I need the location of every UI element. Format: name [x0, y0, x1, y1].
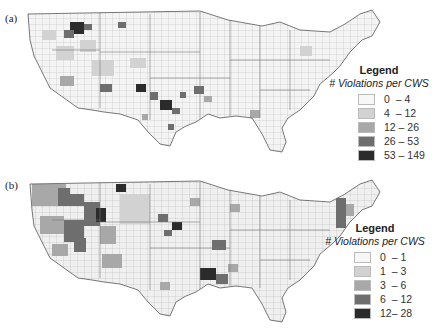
legend-swatch — [358, 94, 375, 105]
legend-item: 26 – 53 — [358, 134, 444, 148]
legend-item: 6 – 12 — [354, 292, 440, 306]
panel-b: (b) Legend # Violations per CWS 0 – 1 1 … — [0, 164, 448, 328]
legend-range: 4 – 12 — [384, 107, 416, 119]
panel-label-b: (b) — [5, 179, 18, 191]
legend-swatch — [358, 136, 375, 147]
legend-title: Legend — [310, 222, 440, 235]
legend-swatch — [354, 280, 371, 291]
panel-label-a: (a) — [5, 12, 17, 24]
legend-range: 6 – 12 — [380, 293, 412, 305]
legend-item: 1 – 3 — [354, 264, 440, 278]
legend-range: 0 – 1 — [380, 251, 406, 263]
legend-a: Legend # Violations per CWS 0 – 4 4 – 12… — [314, 64, 444, 162]
legend-item: 12 – 26 — [358, 120, 444, 134]
legend-range: 12– 28 — [380, 307, 412, 319]
legend-item: 0 – 1 — [354, 250, 440, 264]
legend-range: 26 – 53 — [384, 135, 419, 147]
legend-swatch — [358, 150, 375, 161]
legend-swatch — [358, 108, 375, 119]
legend-subtitle: # Violations per CWS — [314, 77, 444, 90]
legend-item: 12– 28 — [354, 306, 440, 320]
legend-swatch — [354, 294, 371, 305]
legend-range: 12 – 26 — [384, 121, 419, 133]
legend-item: 0 – 4 — [358, 92, 444, 106]
legend-range: 1 – 3 — [380, 265, 406, 277]
legend-subtitle: # Violations per CWS — [310, 235, 440, 248]
legend-swatch — [354, 252, 371, 263]
legend-item: 53 – 149 — [358, 148, 444, 162]
legend-range: 53 – 149 — [384, 149, 425, 161]
legend-title: Legend — [314, 64, 444, 77]
legend-swatch — [354, 266, 371, 277]
legend-item: 4 – 12 — [358, 106, 444, 120]
legend-range: 3 – 6 — [380, 279, 406, 291]
legend-range: 0 – 4 — [384, 93, 410, 105]
legend-swatch — [358, 122, 375, 133]
legend-item: 3 – 6 — [354, 278, 440, 292]
legend-swatch — [354, 308, 371, 319]
legend-b: Legend # Violations per CWS 0 – 1 1 – 3 … — [310, 222, 440, 320]
panel-a: (a) Legend # Violations per CWS 0 – 4 4 … — [0, 0, 448, 164]
